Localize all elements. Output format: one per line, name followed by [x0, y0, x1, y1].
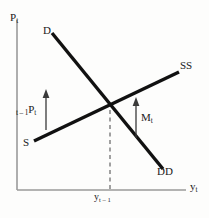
expected-price-arrow-head — [43, 89, 50, 98]
demand-curve — [52, 33, 163, 169]
money-arrow-head — [133, 97, 140, 106]
expected-price-label: t – 1Pt — [16, 104, 36, 115]
demand-curve-top-label: D — [43, 25, 51, 36]
equilibrium-tick-label: yt – 1 — [94, 192, 111, 202]
demand-curve-bottom-label: DD — [157, 166, 173, 177]
supply-demand-figure: Pt yt D DD S SS t – 1Pt Mt yt – 1 — [0, 0, 209, 218]
supply-curve-bottom-label: S — [23, 137, 29, 148]
x-axis-label: yt — [190, 181, 198, 192]
y-axis-label: Pt — [10, 12, 18, 23]
supply-curve-top-label: SS — [180, 60, 192, 71]
money-supply-label: Mt — [141, 112, 153, 123]
supply-curve — [34, 72, 179, 141]
